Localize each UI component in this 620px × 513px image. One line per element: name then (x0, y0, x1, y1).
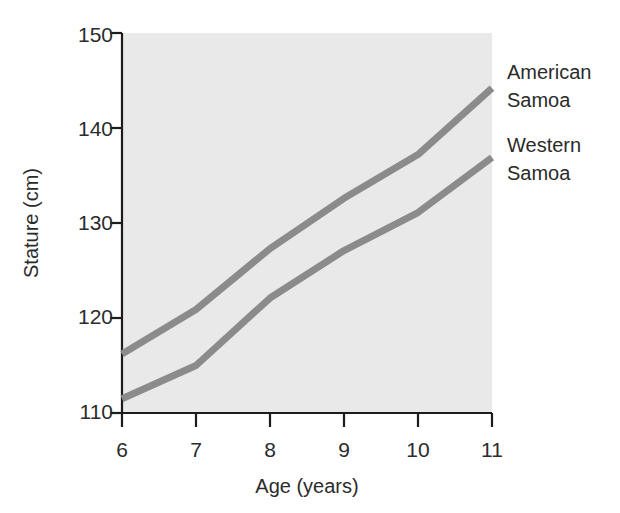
x-tick-label-11: 11 (481, 438, 503, 461)
x-axis-tick-marks (122, 413, 492, 427)
x-tick-label-6: 6 (116, 438, 128, 461)
y-tick-label-110: 110 (80, 400, 113, 423)
legend-label-western-samoa: Samoa (507, 162, 571, 184)
legend-label-american: American (507, 61, 591, 83)
y-tick-label-120: 120 (78, 305, 113, 328)
y-axis-title: Stature (cm) (20, 168, 42, 278)
x-tick-label-10: 10 (406, 438, 429, 461)
x-tick-label-9: 9 (338, 438, 350, 461)
legend-label-american-samoa: Samoa (507, 89, 571, 111)
chart-container: 150 140 130 120 110 6 7 8 9 10 11 Age (y… (0, 0, 620, 513)
x-tick-label-8: 8 (264, 438, 276, 461)
y-tick-label-130: 130 (78, 211, 113, 234)
x-axis-title: Age (years) (255, 475, 358, 497)
y-tick-label-140: 140 (78, 117, 113, 140)
legend-label-western: Western (507, 134, 581, 156)
y-tick-label-150: 150 (78, 23, 113, 46)
x-tick-label-7: 7 (190, 438, 202, 461)
stature-by-age-line-chart: 150 140 130 120 110 6 7 8 9 10 11 Age (y… (0, 0, 620, 513)
